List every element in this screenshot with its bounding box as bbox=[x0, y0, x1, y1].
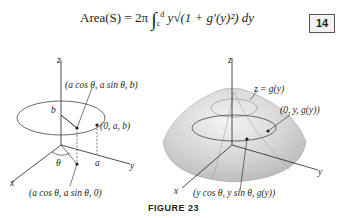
figure-canvas: z x y (a cos θ, a sin θ, b) (0, a, b) (a… bbox=[0, 0, 343, 218]
surface-of-revolution bbox=[163, 88, 306, 182]
x-label: x bbox=[9, 178, 15, 188]
surface-label: z = g(y) bbox=[253, 84, 284, 95]
label-point-top: (a cos θ, a sin θ, b) bbox=[65, 80, 138, 91]
right-figure: z x y z = g(y) (0, y, g(y)) (y cos θ, y … bbox=[163, 55, 323, 199]
label-a: a bbox=[95, 158, 100, 168]
z-label: z bbox=[56, 55, 61, 65]
x-axis bbox=[12, 145, 61, 182]
x-label: x bbox=[173, 186, 179, 196]
label-point-side: (0, y, g(y)) bbox=[280, 105, 320, 116]
label-theta: θ bbox=[56, 158, 61, 168]
leader-bottom bbox=[70, 164, 77, 186]
y-label: y bbox=[129, 161, 135, 171]
point-side bbox=[266, 129, 269, 132]
label-point-side: (0, a, b) bbox=[100, 121, 130, 132]
y-label: y bbox=[317, 167, 323, 177]
point-top bbox=[75, 126, 78, 129]
label-point-general: (y cos θ, y sin θ, g(y)) bbox=[193, 188, 275, 199]
z-label: z bbox=[227, 55, 232, 65]
label-point-bottom: (a cos θ, a sin θ, 0) bbox=[29, 188, 102, 199]
label-b: b bbox=[51, 105, 56, 115]
radius-line bbox=[61, 115, 77, 128]
figure-caption: FIGURE 23 bbox=[148, 203, 199, 213]
point-side bbox=[95, 123, 98, 126]
left-figure: z x y (a cos θ, a sin θ, b) (0, a, b) (a… bbox=[9, 55, 138, 199]
projection-line bbox=[61, 145, 77, 164]
leader-top bbox=[77, 88, 92, 128]
point-bottom bbox=[75, 162, 78, 165]
point-general bbox=[245, 137, 248, 140]
